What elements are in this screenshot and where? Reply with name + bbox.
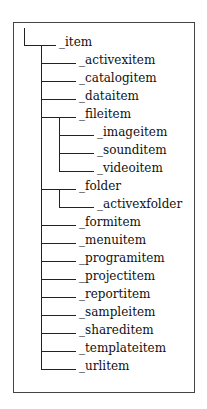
branch-line (41, 351, 76, 352)
node-templateitem: _templateitem (79, 341, 166, 355)
branch-line (41, 369, 76, 370)
node-activexfolder: _activexfolder (97, 197, 182, 211)
branch-line (41, 99, 76, 100)
node-catalogitem: _catalogitem (79, 71, 157, 85)
branch-line (41, 243, 76, 244)
subtree-connector-vertical (59, 189, 60, 208)
branch-line (59, 207, 94, 208)
node-fileitem: _fileitem (79, 107, 131, 121)
node-formitem: _formitem (79, 215, 141, 229)
node-sampleitem: _sampleitem (79, 305, 155, 319)
node-folder: _folder (79, 179, 121, 193)
branch-line (59, 135, 94, 136)
root-connector-vertical (24, 28, 25, 46)
root-connector-horizontal (24, 45, 56, 46)
node-sounditem: _sounditem (97, 143, 167, 157)
branch-line (59, 171, 94, 172)
node-item: _item (59, 35, 92, 49)
node-shareditem: _shareditem (79, 323, 154, 337)
subtree-connector-vertical (59, 117, 60, 172)
node-activexitem: _activexitem (79, 53, 155, 67)
branch-line (41, 279, 76, 280)
node-imageitem: _imageitem (97, 125, 167, 139)
branch-line (41, 63, 76, 64)
branch-line (41, 81, 76, 82)
branch-line (41, 225, 76, 226)
node-dataitem: _dataitem (79, 89, 139, 103)
node-menuitem: _menuitem (79, 233, 146, 247)
node-videoitem: _videoitem (97, 161, 163, 175)
branch-line (41, 315, 76, 316)
node-projectitem: _projectitem (79, 269, 155, 283)
branch-line (59, 153, 94, 154)
branch-line (41, 297, 76, 298)
trunk-connector-vertical (41, 45, 42, 370)
branch-line (41, 333, 76, 334)
branch-line (41, 261, 76, 262)
node-programitem: _programitem (79, 251, 165, 265)
node-reportitem: _reportitem (79, 287, 150, 301)
node-urlitem: _urlitem (79, 359, 129, 373)
